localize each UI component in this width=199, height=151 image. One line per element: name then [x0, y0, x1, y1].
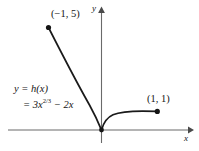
point-label-left: (−1, 5): [51, 9, 80, 20]
point-dot-origin: [99, 128, 104, 133]
y-axis-arrow-icon: [98, 7, 105, 14]
equation-line-1: y = h(x): [14, 84, 73, 95]
point-dot-left: [46, 25, 51, 30]
curve-left-branch: [49, 28, 102, 130]
equation-line-2-suffix: − 2x: [51, 98, 73, 109]
equation-line-2-prefix: = 3x: [23, 98, 43, 109]
equation-line-2: = 3x2/3 − 2x: [14, 98, 73, 110]
point-label-right: (1, 1): [147, 94, 170, 105]
equation-exponent: 2/3: [43, 97, 51, 104]
graph-canvas: [0, 0, 199, 151]
x-axis-label: x: [184, 134, 188, 143]
x-axis-arrow-icon: [188, 127, 194, 134]
equation-line-1-text: y = h(x): [14, 83, 48, 94]
graph-figure: (−1, 5) (1, 1) y x y = h(x) = 3x2/3 − 2x: [0, 0, 199, 151]
equation-block: y = h(x) = 3x2/3 − 2x: [14, 84, 73, 110]
curve-right-branch: [102, 111, 157, 130]
y-axis-label: y: [92, 4, 96, 13]
point-dot-right: [155, 109, 160, 114]
